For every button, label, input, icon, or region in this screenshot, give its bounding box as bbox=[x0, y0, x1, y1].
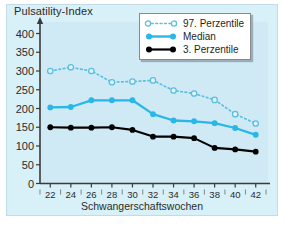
legend-label-p3: 3. Perzentile bbox=[183, 44, 239, 55]
y-axis-tick-label: 50 bbox=[22, 159, 34, 171]
x-axis-tick-label: 42 bbox=[250, 189, 261, 200]
legend-label-p97: 97. Perzentile bbox=[183, 18, 244, 29]
y-axis-tick-label: 250 bbox=[16, 84, 34, 96]
y-axis-tick-label: 150 bbox=[16, 121, 34, 133]
legend-item-p3: 3. Perzentile bbox=[144, 43, 244, 56]
x-axis-tick-label: 26 bbox=[86, 189, 97, 200]
legend-item-median: Median bbox=[144, 30, 244, 43]
legend-key-solid-filled-circle-icon bbox=[144, 31, 178, 42]
chart-figure: Pulsatility-Index 0501001502002503003504… bbox=[0, 0, 284, 232]
x-axis-tick-label: 30 bbox=[127, 189, 138, 200]
y-axis-tick-label: 350 bbox=[16, 46, 34, 58]
x-axis-tick-label: 34 bbox=[168, 189, 179, 200]
y-axis-tick-label: 0 bbox=[28, 178, 34, 190]
x-axis-tick-label: 22 bbox=[45, 189, 56, 200]
series-p3 bbox=[47, 124, 258, 154]
chart-legend: 97. Perzentile Median 3. Perzentile bbox=[139, 13, 251, 60]
x-axis-tick-label: 36 bbox=[189, 189, 200, 200]
x-axis-tick-label: 28 bbox=[107, 189, 118, 200]
x-axis-tick-label: 40 bbox=[230, 189, 241, 200]
x-axis-tick-label: 32 bbox=[148, 189, 159, 200]
y-axis-tick-label: 400 bbox=[16, 28, 34, 40]
x-axis-tick-label: 24 bbox=[66, 189, 77, 200]
x-axis-tick-label: 38 bbox=[209, 189, 220, 200]
series-median bbox=[47, 97, 258, 137]
y-axis-tick-label: 300 bbox=[16, 65, 34, 77]
legend-item-p97: 97. Perzentile bbox=[144, 17, 244, 30]
y-axis-tick-label: 200 bbox=[16, 103, 34, 115]
legend-key-dotted-open-circle-icon bbox=[144, 18, 178, 29]
y-axis-tick-label: 100 bbox=[16, 140, 34, 152]
legend-label-median: Median bbox=[183, 31, 216, 42]
x-axis-label: Schwangerschaftswochen bbox=[0, 200, 284, 212]
legend-key-solid-filled-circle-black-icon bbox=[144, 44, 178, 55]
